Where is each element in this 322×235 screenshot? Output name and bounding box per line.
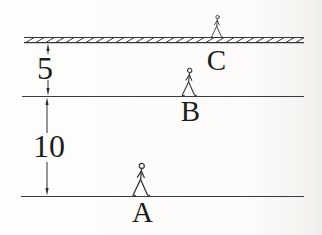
level-label-b: B — [179, 97, 202, 126]
walking-person-icon — [133, 163, 150, 195]
upper-gap-dimension-label: 5 — [33, 52, 57, 84]
ceiling-hatched-surface — [24, 38, 304, 43]
diagram-canvas: 5 10 C B A — [0, 0, 322, 235]
diagram-graphics — [0, 0, 322, 235]
level-label-c: C — [203, 46, 230, 75]
walking-person-icon — [212, 15, 223, 37]
lower-gap-dimension-label: 10 — [33, 130, 65, 162]
level-label-a: A — [128, 198, 157, 227]
walking-person-icon — [182, 68, 196, 96]
